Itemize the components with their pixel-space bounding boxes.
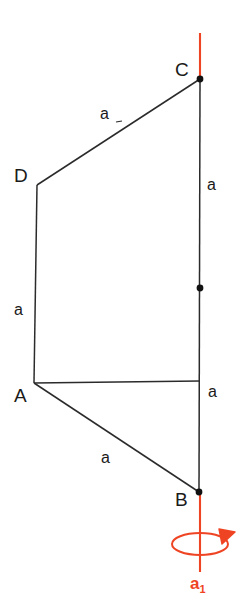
vertex-label-b: B [175,490,188,509]
vertex-dot-c [197,76,204,83]
side-label-cb-lower: a [208,384,217,400]
edge-a-axis-horizontal [34,381,200,383]
vertex-dot-b [196,489,203,496]
edge-d-a [34,185,37,383]
edge-tick-mark [116,121,122,122]
midpoint-dot [197,285,204,292]
side-label-da: a [14,302,23,318]
side-label-dc: a [100,106,109,122]
geometry-diagram: C D A B a a a a a a1 [0,0,243,611]
vertex-label-d: D [14,166,28,185]
rotation-axis-label: a1 [190,575,206,595]
vertex-label-c: C [175,60,189,79]
edge-d-c [37,79,200,185]
edge-a-b [34,383,199,492]
vertex-label-a: A [14,386,27,405]
side-label-cb-upper: a [207,177,216,193]
rotation-axis-label-subscript: 1 [199,583,205,595]
diagram-canvas [0,0,243,611]
side-label-ab: a [101,450,110,466]
